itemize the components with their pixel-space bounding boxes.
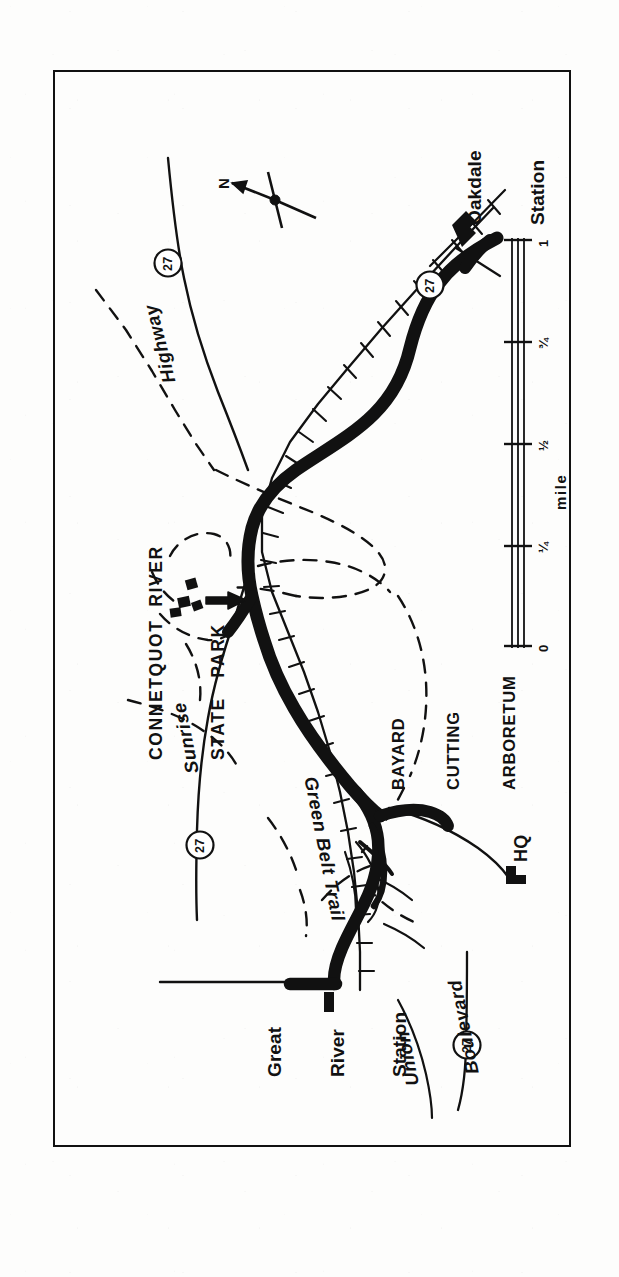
label-oakdale-line2: Station: [528, 150, 548, 225]
label-union-line1: Union: [385, 990, 423, 1088]
shield-label-south: 27: [461, 1038, 474, 1053]
label-park-line1: CONNETQUOT RIVER: [147, 545, 166, 760]
shield-label-oakdale: 27: [424, 278, 437, 293]
label-scale-three-quarter: ¾: [537, 338, 551, 349]
label-compass-north: N: [216, 178, 232, 189]
label-great-river-line2: River: [328, 1012, 348, 1077]
label-great-river-line1: Great: [265, 1012, 285, 1077]
label-scale-half: ½: [537, 440, 551, 451]
label-scale-one: 1: [537, 239, 551, 247]
label-scale-units: mile: [553, 474, 569, 510]
label-union-line2: Boulevard: [445, 978, 483, 1076]
shield-label-sunrise: 27: [194, 838, 207, 853]
label-scale-0: 0: [537, 644, 551, 652]
label-arboretum-line2: CUTTING: [445, 676, 462, 790]
shield-label-north: 27: [162, 256, 175, 271]
map-page: CONNETQUOT RIVER STATE PARK BAYARD CUTTI…: [0, 0, 619, 1277]
label-oakdale-line1: Oakdale: [465, 150, 485, 225]
label-oakdale-station: Oakdale Station: [425, 150, 588, 225]
label-scale-quarter: ¼: [537, 542, 551, 553]
label-park-line2: STATE PARK: [209, 545, 228, 760]
label-arboretum-line3: ARBORETUM: [501, 676, 518, 790]
label-hq: HQ: [512, 834, 531, 862]
label-arboretum-name: BAYARD CUTTING ARBORETUM: [355, 676, 553, 790]
label-arboretum-line1: BAYARD: [390, 676, 407, 790]
